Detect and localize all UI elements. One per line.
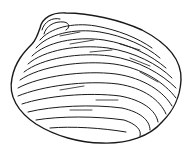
clam-shell-illustration — [0, 0, 188, 152]
clam-shell-icon — [0, 0, 188, 152]
